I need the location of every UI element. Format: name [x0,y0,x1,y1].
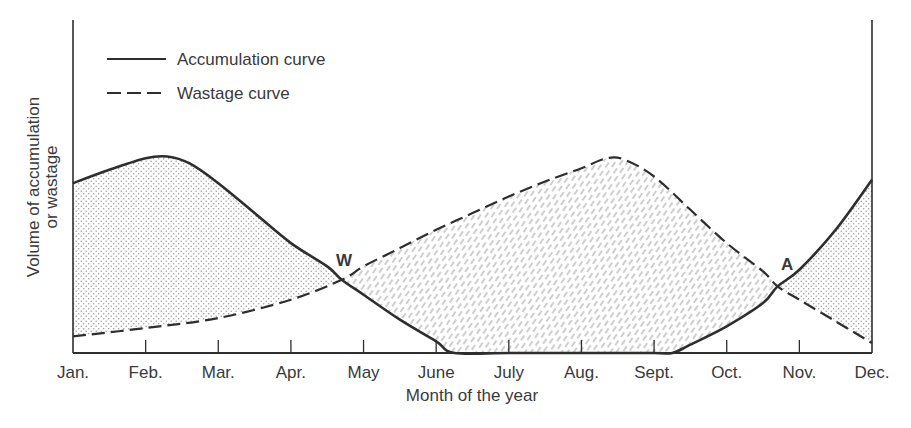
x-tick-label: Jan. [57,363,89,382]
glacier-mass-balance-chart: Jan.Feb.Mar.Apr.MayJuneJulyAug.Sept.Oct.… [0,0,911,428]
x-tick-label: Feb. [129,363,163,382]
x-tick-label: May [347,363,380,382]
legend-label-accumulation: Accumulation curve [177,50,325,69]
label-point-a: A [781,255,793,274]
x-tick-label: Aug. [564,363,599,382]
x-tick-label: July [494,363,525,382]
x-tick-label: Dec. [855,363,890,382]
y-axis-title-line2: or wastage [42,145,61,228]
x-tick-label: June [418,363,455,382]
y-axis-title-line1: Volume of accumulation [24,97,43,278]
label-point-w: W [336,251,353,270]
x-tick-label: Oct. [711,363,742,382]
x-axis-tick-labels: Jan.Feb.Mar.Apr.MayJuneJulyAug.Sept.Oct.… [57,363,890,382]
x-tick-label: Apr. [276,363,306,382]
x-tick-label: Sept. [634,363,674,382]
accumulation-surplus-region-left [73,157,342,337]
x-tick-label: Nov. [783,363,817,382]
legend: Accumulation curve Wastage curve [107,50,325,103]
x-tick-label: Mar. [202,363,235,382]
x-axis-title: Month of the year [406,386,539,405]
legend-label-wastage: Wastage curve [177,84,290,103]
